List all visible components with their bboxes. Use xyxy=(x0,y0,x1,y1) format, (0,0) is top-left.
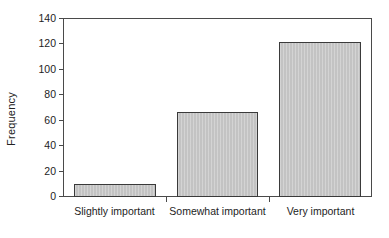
bar xyxy=(279,42,361,197)
x-axis-tick-label: Very important xyxy=(269,204,372,218)
bar-chart-figure: Frequency 020406080100120140 Slightly im… xyxy=(0,0,389,238)
y-axis-tick-label: 0 xyxy=(28,191,56,201)
x-axis-tick-mark xyxy=(166,197,167,202)
y-axis-title: Frequency xyxy=(0,0,22,238)
y-axis-tick-label: 20 xyxy=(28,166,56,176)
x-axis-tick-labels: Slightly importantSomewhat importantVery… xyxy=(63,204,372,222)
y-axis-tick-label: 80 xyxy=(28,89,56,99)
y-axis-tick-label: 120 xyxy=(28,38,56,48)
y-axis-tick-labels: 020406080100120140 xyxy=(22,0,56,238)
x-axis-tick-mark xyxy=(269,197,270,202)
x-axis-tick-label: Somewhat important xyxy=(166,204,269,218)
bars-layer xyxy=(64,19,371,197)
y-axis-tick-label: 100 xyxy=(28,64,56,74)
x-axis-tick-label: Slightly important xyxy=(63,204,166,218)
y-axis-tick-label: 60 xyxy=(28,115,56,125)
y-axis-tick-label: 40 xyxy=(28,140,56,150)
bar xyxy=(74,184,156,197)
x-axis-tick-marks xyxy=(63,197,372,203)
y-axis-tick-label: 140 xyxy=(28,13,56,23)
bar xyxy=(177,112,259,197)
